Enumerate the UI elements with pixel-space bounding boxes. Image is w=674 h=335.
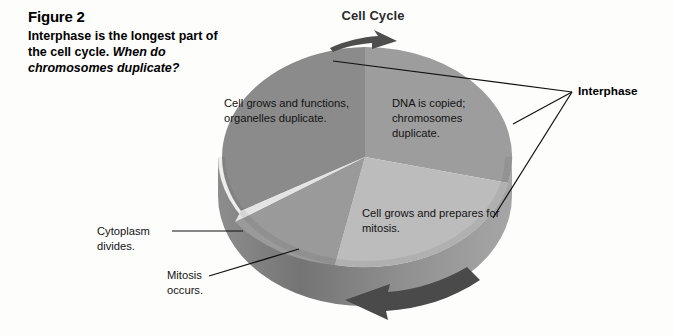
wedge-label-g2: Cell grows and prepares for mitosis. bbox=[362, 206, 514, 236]
cell-cycle-pie-chart bbox=[0, 0, 674, 335]
wedge-label-g1: Cell grows and functions, organelles dup… bbox=[224, 96, 356, 126]
callout-label-interphase: Interphase bbox=[578, 84, 666, 100]
callout-label-mitosis: Mitosis occurs. bbox=[167, 268, 231, 298]
leader-interphase-s bbox=[513, 92, 572, 124]
callout-label-cytokinesis: Cytoplasm divides. bbox=[97, 224, 173, 254]
figure-container: Figure 2 Interphase is the longest part … bbox=[0, 0, 674, 335]
wedge-label-s: DNA is copied; chromosomes duplicate. bbox=[392, 96, 512, 141]
